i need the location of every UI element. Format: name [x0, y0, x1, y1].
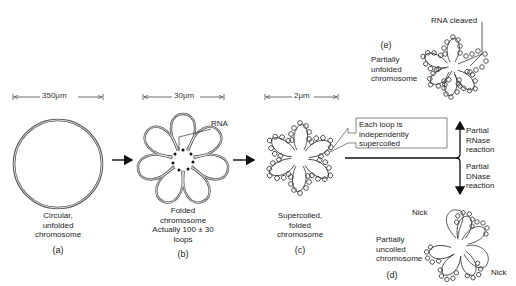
- dnase-line-3: reaction: [466, 181, 494, 191]
- rnase-reaction-label: Partial RNase reaction: [466, 126, 494, 155]
- caption-d-line-1: Partially: [376, 235, 422, 245]
- panel-tag-c: (c): [292, 245, 308, 255]
- caption-a-line-2: unfolded: [18, 221, 98, 231]
- caption-d-line-3: chromosome: [376, 254, 422, 264]
- caption-a-line-1: Circular,: [18, 211, 98, 221]
- caption-b-line-1: Folded: [138, 206, 228, 216]
- caption-a-line-3: chromosome: [18, 230, 98, 240]
- caption-e-line-1: Partially: [371, 55, 417, 65]
- dnase-reaction-label: Partial DNase reaction: [466, 162, 494, 191]
- dnase-line-1: Partial: [466, 162, 494, 172]
- circular-chromosome-drawing: [14, 120, 102, 208]
- caption-b-line-2: chromosome: [138, 216, 228, 226]
- caption-e-line-3: chromosome: [371, 74, 417, 84]
- caption-b-line-3: Actually 100 ± 30: [138, 225, 228, 235]
- caption-a: Circular, unfolded chromosome: [18, 211, 98, 240]
- callout-text: Each loop is independently supercoiled: [359, 120, 409, 149]
- panel-tag-d: (d): [384, 270, 400, 280]
- caption-e: Partially unfolded chromosome: [371, 55, 417, 84]
- callout-line-1: Each loop is: [359, 120, 409, 130]
- callout-line-2: independently: [359, 130, 409, 140]
- scale-label-b: 30μm: [173, 91, 195, 100]
- caption-b: Folded chromosome Actually 100 ± 30 loop…: [138, 206, 228, 244]
- caption-c: Supercoiled, folded chromosome: [260, 211, 340, 240]
- rnase-line-2: RNase: [466, 136, 494, 146]
- rna-cleaved-label: RNA cleaved: [431, 16, 477, 26]
- rnase-line-1: Partial: [466, 126, 494, 136]
- caption-d: Partially uncoiled chromosome: [376, 235, 422, 264]
- partially-unfolded-chromosome-drawing: [417, 22, 488, 99]
- rna-label: RNA: [211, 119, 228, 129]
- rnase-line-3: reaction: [466, 145, 494, 155]
- caption-c-line-1: Supercoiled,: [260, 211, 340, 221]
- supercoiled-chromosome-drawing: [262, 121, 338, 196]
- callout-line-3: supercoiled: [359, 139, 409, 149]
- scale-label-a: 350μm: [41, 91, 68, 100]
- caption-c-line-2: folded: [260, 221, 340, 231]
- panel-tag-b: (b): [175, 249, 191, 259]
- panel-tag-a: (a): [50, 245, 66, 255]
- caption-b-line-4: loops: [138, 235, 228, 245]
- nick-label-bottom: Nick: [491, 268, 507, 278]
- dnase-line-2: DNase: [466, 172, 494, 182]
- panel-tag-e: (e): [378, 40, 394, 50]
- partially-uncoiled-chromosome-drawing: [421, 206, 490, 284]
- diagram-canvas: [0, 0, 516, 286]
- scale-label-c: 2μm: [293, 91, 311, 100]
- caption-c-line-3: chromosome: [260, 230, 340, 240]
- caption-e-line-2: unfolded: [371, 65, 417, 75]
- caption-d-line-2: uncoiled: [376, 245, 422, 255]
- nick-label-top: Nick: [412, 208, 428, 218]
